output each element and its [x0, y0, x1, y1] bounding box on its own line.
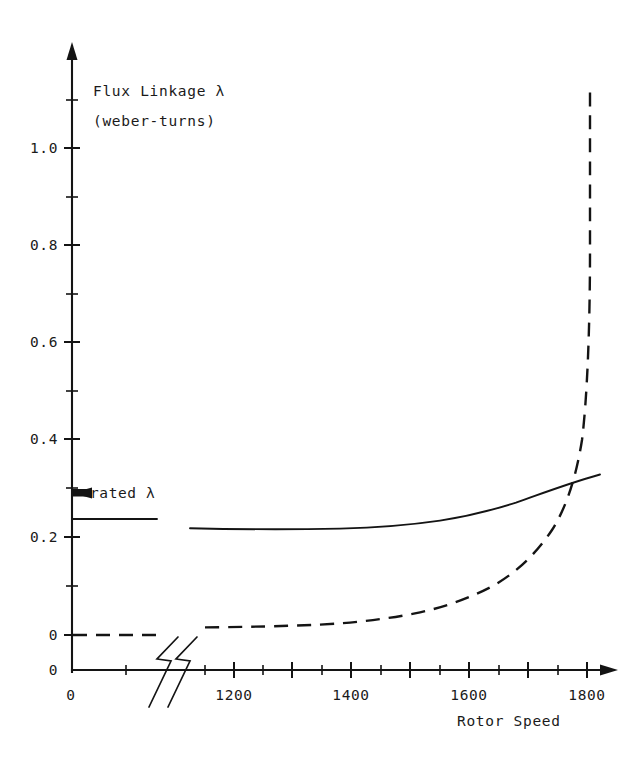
- x-axis-arrow-icon: [600, 665, 618, 676]
- x-axis-origin-label: 0: [0, 663, 58, 678]
- series-flux-linkage-dashed: [73, 92, 590, 635]
- x-tick-label-1800: 1800: [552, 688, 622, 703]
- x-tick-label-0: 0: [36, 688, 106, 703]
- rated-lambda-label: rated λ: [90, 485, 155, 501]
- axis-break-symbol: [149, 637, 197, 707]
- y-tick-label-0.6: 0.6: [0, 335, 58, 350]
- y-axis-arrow-icon: [67, 42, 78, 60]
- y-tick-label-0.2: 0.2: [0, 530, 58, 545]
- y-tick-label-0.4: 0.4: [0, 432, 58, 447]
- y-tick-label-1.0: 1.0: [0, 141, 58, 156]
- series-flux-linkage-solid: [72, 475, 600, 530]
- y-tick-label-0: 0: [0, 628, 58, 643]
- y-axis-title-line1: Flux Linkage λ: [93, 80, 225, 102]
- rated-lambda-marker: [72, 488, 92, 499]
- rotor-speed-axis: [72, 662, 618, 678]
- x-tick-label-1200: 1200: [199, 688, 269, 703]
- x-tick-label-1400: 1400: [316, 688, 386, 703]
- figure-root: 1.0 0.8 0.6 0.4 0.2 0 0 0 1200 1400 1600…: [0, 0, 636, 761]
- x-tick-label-1600: 1600: [434, 688, 504, 703]
- x-axis-title: Rotor Speed: [457, 710, 561, 732]
- y-tick-label-0.8: 0.8: [0, 238, 58, 253]
- flux-linkage-axis: [64, 42, 80, 672]
- y-axis-title-line2: (weber-turns): [93, 110, 216, 132]
